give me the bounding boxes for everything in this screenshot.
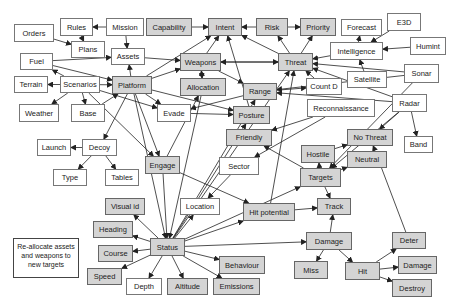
- node-decoy[interactable]: Decoy: [82, 139, 117, 156]
- node-targets[interactable]: Targets: [300, 168, 341, 187]
- edge-platform-evade: [146, 94, 161, 104]
- edge-status-emissions: [183, 256, 221, 278]
- node-miss[interactable]: Miss: [294, 261, 328, 279]
- node-plans[interactable]: Plans: [71, 41, 105, 58]
- node-hit[interactable]: Hit: [345, 262, 380, 280]
- node-posture[interactable]: Posture: [233, 106, 270, 124]
- node-band[interactable]: Band: [404, 136, 433, 153]
- node-mission[interactable]: Mission: [106, 18, 144, 36]
- edge-status-location: [175, 215, 193, 238]
- node-e3d[interactable]: E3D: [387, 13, 421, 31]
- edge-status-depth: [149, 256, 162, 278]
- node-deter[interactable]: Deter: [392, 232, 426, 249]
- edge-damage-miss: [317, 250, 324, 261]
- edge-status-behaviour: [185, 251, 219, 259]
- node-visualid[interactable]: Visual id: [105, 198, 145, 215]
- node-type[interactable]: Type: [53, 169, 87, 186]
- node-depth[interactable]: Depth: [126, 278, 162, 295]
- node-weapons[interactable]: Weapons: [180, 53, 221, 71]
- node-damage2[interactable]: Damage: [398, 256, 437, 274]
- edge-status-heading: [133, 236, 150, 241]
- node-humint[interactable]: Humint: [410, 37, 446, 55]
- edge-scenarios-base: [82, 93, 85, 104]
- node-speed[interactable]: Speed: [87, 268, 122, 285]
- node-status[interactable]: Status: [150, 238, 185, 256]
- node-behaviour[interactable]: Behaviour: [219, 256, 265, 274]
- edge-threat-priority: [301, 36, 312, 53]
- node-satellite[interactable]: Satellite: [347, 71, 387, 88]
- edge-platform-assets: [129, 65, 131, 76]
- node-terrain[interactable]: Terrain: [14, 76, 48, 93]
- node-rules[interactable]: Rules: [60, 18, 93, 36]
- node-course[interactable]: Course: [98, 245, 133, 262]
- node-friendly[interactable]: Friendly: [226, 129, 272, 146]
- node-radar[interactable]: Radar: [392, 94, 427, 112]
- node-hitpotential[interactable]: Hit potential: [243, 203, 295, 221]
- edge-platform-engage: [135, 94, 159, 156]
- node-allocation[interactable]: Allocation: [180, 78, 226, 96]
- node-base[interactable]: Base: [71, 104, 105, 122]
- node-evade[interactable]: Evade: [157, 104, 191, 122]
- edge-status-course: [133, 249, 150, 251]
- edge-mission-assets: [126, 36, 127, 48]
- edge-countd-threat: [306, 71, 314, 78]
- node-emissions[interactable]: Emissions: [213, 278, 260, 295]
- edge-threat-intent: [242, 35, 278, 53]
- node-intent[interactable]: Intent: [208, 18, 242, 36]
- edge-allocation-weapons: [201, 71, 202, 78]
- node-hostile[interactable]: Hostile: [301, 145, 335, 163]
- node-destroy[interactable]: Destroy: [392, 279, 432, 297]
- node-orders[interactable]: Orders: [14, 24, 54, 42]
- edge-intelligence-threat: [313, 56, 330, 59]
- edge-weapons-intent: [207, 36, 219, 53]
- node-heading[interactable]: Heading: [93, 221, 133, 238]
- node-scenarios[interactable]: Scenarios: [60, 76, 100, 93]
- edge-humint-intelligence: [383, 47, 410, 49]
- edge-status-visualid: [134, 215, 158, 238]
- edge-status-damage: [185, 242, 306, 246]
- node-nothreat[interactable]: No Threat: [347, 129, 393, 146]
- node-assets[interactable]: Assets: [111, 48, 145, 65]
- edge-targets-track: [325, 187, 330, 198]
- node-capability[interactable]: Capability: [146, 18, 192, 36]
- edge-recon-friendly: [272, 117, 313, 130]
- node-range[interactable]: Range: [243, 83, 277, 100]
- edge-orders-plans: [54, 39, 71, 44]
- edge-decoy-type: [78, 156, 91, 169]
- node-intelligence[interactable]: Intelligence: [330, 42, 383, 60]
- node-threat[interactable]: Threat: [278, 53, 313, 71]
- edge-damage-track: [330, 215, 332, 232]
- edge-threat-risk: [278, 36, 289, 53]
- node-sector[interactable]: Sector: [219, 157, 259, 175]
- node-neutral[interactable]: Neutral: [347, 151, 387, 168]
- diagram-canvas: OrdersRulesMissionPlansAssetsFuelTerrain…: [0, 0, 454, 306]
- edge-scenarios-weather: [52, 93, 68, 104]
- edge-satellite-intelligence: [360, 60, 364, 71]
- edge-targets-friendly: [264, 146, 303, 168]
- node-recon[interactable]: Reconnaissance: [307, 99, 375, 117]
- node-location[interactable]: Location: [180, 198, 220, 215]
- node-engage[interactable]: Engage: [145, 156, 180, 174]
- node-sonar[interactable]: Sonar: [404, 64, 439, 83]
- edge-status-altitude: [172, 256, 183, 278]
- edge-hostile-nothreat: [335, 145, 347, 149]
- node-tables[interactable]: Tables: [105, 169, 139, 186]
- edge-hit-damage2: [380, 267, 398, 269]
- edge-hit-destroy: [380, 277, 392, 281]
- node-fuel[interactable]: Fuel: [20, 53, 53, 70]
- node-risk[interactable]: Risk: [256, 18, 288, 36]
- node-track[interactable]: Track: [317, 198, 351, 215]
- edge-damage-hit: [339, 250, 352, 262]
- edge-hitpotential-track: [295, 208, 317, 210]
- node-weather[interactable]: Weather: [19, 104, 59, 122]
- edge-radar-nothreat: [380, 112, 399, 129]
- edge-radar-band: [411, 112, 416, 136]
- node-launch[interactable]: Launch: [37, 139, 71, 156]
- node-countd[interactable]: Count D: [306, 78, 342, 95]
- node-platform[interactable]: Platform: [112, 76, 152, 94]
- node-damage[interactable]: Damage: [306, 232, 352, 250]
- node-priority[interactable]: Priority: [300, 18, 336, 36]
- node-forecast[interactable]: Forecast: [341, 19, 382, 36]
- node-altitude[interactable]: Altitude: [167, 278, 208, 295]
- edge-status-hitpotential: [185, 221, 243, 241]
